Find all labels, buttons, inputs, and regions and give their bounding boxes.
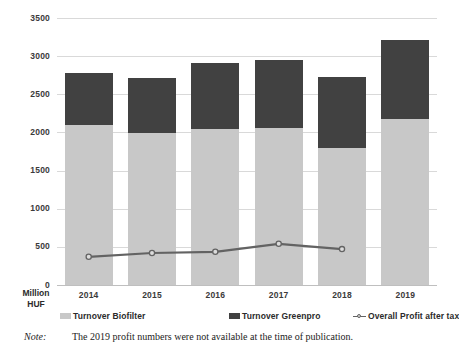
profit-line-markers: [86, 241, 345, 259]
legend-swatch-icon: [229, 313, 240, 319]
legend-label: Turnover Biofilter: [73, 311, 145, 321]
legend-label: Turnover Greenpro: [242, 311, 321, 321]
profit-marker-2018: [339, 247, 344, 252]
x-axis-tick-2014: 2014: [57, 290, 120, 300]
y-axis-tick-2000: 2000: [6, 128, 50, 137]
profit-marker-2015: [149, 250, 154, 255]
profit-marker-2016: [213, 249, 218, 254]
figure-note: Note: The 2019 profit numbers were not a…: [24, 331, 434, 342]
y-axis-unit-label: Million HUF: [13, 288, 59, 310]
profit-line-series: [57, 18, 437, 285]
x-axis-tick-2018: 2018: [310, 290, 373, 300]
legend-item-overall-profit-after-tax[interactable]: Overall Profit after tax: [353, 309, 459, 323]
x-axis-tick-2017: 2017: [247, 290, 310, 300]
legend-swatch-icon: [60, 313, 71, 319]
x-axis-tick-2015: 2015: [120, 290, 183, 300]
figure-note-text: The 2019 profit numbers were not availab…: [72, 331, 353, 342]
chart-legend: Turnover BiofilterTurnover GreenproOvera…: [60, 309, 440, 323]
gridline-0: [57, 285, 437, 286]
y-axis-unit-line-1: Million: [13, 288, 59, 299]
legend-line-marker-icon: [353, 313, 366, 320]
profit-marker-2017: [276, 241, 281, 246]
y-axis-tick-1500: 1500: [6, 166, 50, 175]
x-axis-tick-2016: 2016: [184, 290, 247, 300]
y-axis-tick-2500: 2500: [6, 90, 50, 99]
legend-item-turnover-greenpro[interactable]: Turnover Greenpro: [229, 309, 321, 323]
legend-label: Overall Profit after tax: [368, 311, 459, 321]
figure-note-label: Note:: [24, 331, 72, 342]
profit-marker-2014: [86, 254, 91, 259]
legend-item-turnover-biofilter[interactable]: Turnover Biofilter: [60, 309, 145, 323]
y-axis-unit-line-2: HUF: [13, 299, 59, 310]
y-axis-tick-500: 500: [6, 242, 50, 251]
plot-area: [57, 18, 437, 285]
y-axis-tick-3000: 3000: [6, 52, 50, 61]
y-axis-tick-1000: 1000: [6, 204, 50, 213]
x-axis-tick-2019: 2019: [374, 290, 437, 300]
y-axis-tick-3500: 3500: [6, 14, 50, 23]
